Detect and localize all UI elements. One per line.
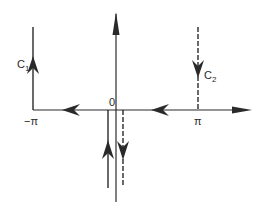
c2-label-main: C [204,69,212,81]
c2-label: C2 [204,69,217,84]
real-axis-arrow-right-icon [232,107,252,114]
pi-label: π [194,115,202,127]
minus-pi-label: −π [24,115,38,127]
origin-label: 0 [109,96,115,108]
contour-diagram: 0 −π π C1 C2 [0,0,265,212]
c1-label: C1 [17,58,30,73]
c1-label-sub: 1 [25,64,30,73]
c1-label-main: C [17,58,25,70]
c2-label-sub: 2 [212,75,217,84]
bottom-path-arrow-down-icon [117,141,129,160]
imaginary-axis-arrow-up-icon [113,12,120,35]
